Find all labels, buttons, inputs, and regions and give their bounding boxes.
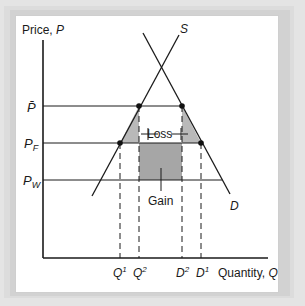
chart-svg: Price, P Quantity, Q S D Loss Gain P̄ PF… (0, 0, 305, 306)
dot-pbar-supply (136, 103, 142, 109)
p-bar-label: P̄ (27, 100, 36, 115)
supply-label: S (180, 22, 188, 36)
p-f-label: PF (24, 136, 39, 153)
q1-label: Q1 (113, 265, 127, 280)
p-w-label: PW (23, 173, 42, 190)
y-axis-label: Price, P (22, 23, 64, 37)
loss-label: Loss (147, 127, 172, 141)
loss-left-triangle (120, 106, 139, 143)
q2-label: Q2 (133, 265, 147, 280)
d1-label: D1 (196, 265, 209, 280)
dot-pf-supply (117, 140, 123, 146)
dot-pbar-demand (179, 103, 185, 109)
dot-pf-demand (198, 140, 204, 146)
d2-label: D2 (176, 265, 190, 280)
demand-label: D (230, 199, 239, 213)
gain-label: Gain (148, 194, 173, 208)
x-axis-label: Quantity, Q (218, 266, 278, 280)
